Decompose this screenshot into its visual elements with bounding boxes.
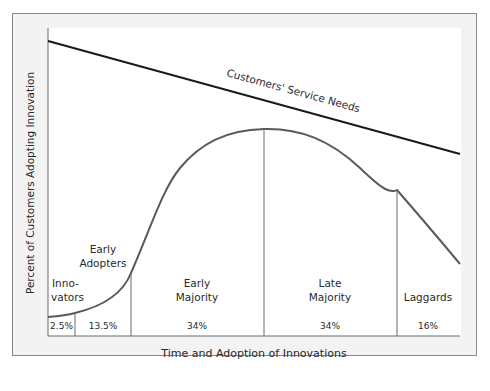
x-axis-title: Time and Adoption of Innovations bbox=[160, 347, 347, 360]
segment-late-majority-line2: Majority bbox=[309, 291, 351, 303]
percent-early-majority: 34% bbox=[187, 321, 207, 331]
segment-early-adopters-line1: Early bbox=[90, 243, 117, 255]
segment-early-majority-line1: Early bbox=[184, 277, 211, 289]
percent-innovators: 2.5% bbox=[50, 321, 73, 331]
segment-innovators-line1: Inno- bbox=[52, 277, 79, 289]
adoption-chart: Customers' Service Needs Inno- vators Ea… bbox=[0, 0, 490, 391]
percent-laggards: 16% bbox=[418, 321, 438, 331]
segment-innovators-line2: vators bbox=[51, 291, 84, 303]
segment-late-majority-line1: Late bbox=[319, 277, 342, 289]
y-axis-title: Percent of Customers Adopting Innovation bbox=[24, 72, 36, 294]
percent-early-adopters: 13.5% bbox=[89, 321, 118, 331]
segment-laggards-label: Laggards bbox=[404, 291, 452, 303]
percent-late-majority: 34% bbox=[320, 321, 340, 331]
segment-early-majority-line2: Majority bbox=[176, 291, 218, 303]
segment-early-adopters-line2: Adopters bbox=[79, 257, 126, 269]
